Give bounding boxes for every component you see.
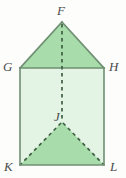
vertex-label-G: G xyxy=(3,60,12,73)
vertex-label-K: K xyxy=(4,160,13,173)
vertex-label-F: F xyxy=(57,4,65,17)
figure-canvas xyxy=(0,0,126,178)
vertex-label-J: J xyxy=(54,110,60,123)
vertex-label-L: L xyxy=(110,160,117,173)
geometry-figure: F G H J K L xyxy=(0,0,126,178)
vertex-label-H: H xyxy=(109,60,118,73)
